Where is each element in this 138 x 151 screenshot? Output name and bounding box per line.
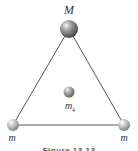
- triangle-diagram: [0, 0, 138, 151]
- sphere-bottom-right-m: [118, 119, 130, 131]
- label-center-m4: m4: [65, 101, 75, 113]
- figure-caption: Figure 13.13: [0, 146, 138, 151]
- sphere-bottom-left-m: [7, 119, 19, 131]
- label-top-M: M: [64, 4, 74, 16]
- label-center-subscript: 4: [72, 107, 75, 113]
- sphere-center-m4: [64, 87, 75, 98]
- label-bottom-left-m: m: [8, 133, 15, 143]
- label-bottom-right-m: m: [120, 133, 127, 143]
- sphere-top-M: [60, 20, 78, 38]
